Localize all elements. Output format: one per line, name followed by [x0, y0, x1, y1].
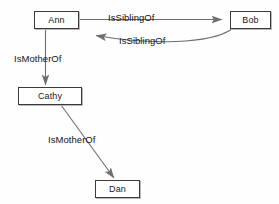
node-bob-label: Bob [242, 15, 258, 24]
node-cathy-label: Cathy [38, 91, 62, 100]
node-cathy[interactable]: Cathy [18, 87, 82, 105]
edge-label-ann-bob: IsSiblingOf [108, 13, 155, 23]
edge-label-ann-cathy: IsMotherOf [14, 54, 62, 64]
node-ann[interactable]: Ann [34, 11, 79, 29]
node-ann-label: Ann [48, 15, 64, 24]
node-dan-label: Dan [109, 184, 126, 193]
node-dan[interactable]: Dan [95, 180, 140, 198]
node-bob[interactable]: Bob [230, 11, 271, 29]
edge-label-bob-ann: IsSiblingOf [119, 36, 166, 46]
edge-label-cathy-dan: IsMotherOf [48, 135, 96, 145]
